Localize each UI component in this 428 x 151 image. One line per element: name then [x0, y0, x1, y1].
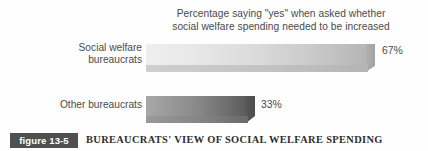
category-label-line-1: Social welfare: [30, 42, 142, 54]
bar-base-shadow: [146, 116, 248, 123]
plot-area: Social welfare bureaucrats 67% Other bur…: [0, 0, 428, 128]
bar-social-welfare-bureaucrats: [146, 44, 375, 72]
bar-base-shadow: [146, 65, 368, 72]
bar-value-social-welfare-bureaucrats: 67%: [382, 45, 403, 57]
figure-caption-text: BUREAUCRATS' VIEW OF SOCIAL WELFARE SPEN…: [86, 134, 383, 145]
category-label-line-1: Other bureaucrats: [24, 99, 142, 111]
category-label-line-2: bureaucrats: [30, 54, 142, 66]
figure-container: Percentage saying "yes" when asked wheth…: [0, 0, 428, 151]
figure-number-badge: figure 13-5: [10, 133, 78, 148]
bar-other-bureaucrats: [146, 96, 254, 123]
figure-caption-row: figure 13-5 BUREAUCRATS' VIEW OF SOCIAL …: [0, 130, 428, 151]
category-label-social-welfare-bureaucrats: Social welfare bureaucrats: [30, 42, 142, 67]
category-label-other-bureaucrats: Other bureaucrats: [24, 99, 142, 111]
bar-value-other-bureaucrats: 33%: [261, 99, 282, 111]
